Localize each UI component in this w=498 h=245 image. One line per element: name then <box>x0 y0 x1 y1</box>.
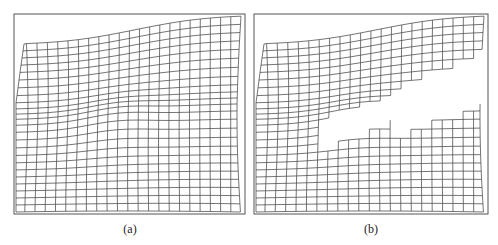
deformed-mesh-a <box>0 0 250 220</box>
panel-a <box>0 0 250 220</box>
fractured-mesh-b <box>250 0 498 220</box>
caption-a: (a) <box>110 222 150 237</box>
panel-b <box>250 0 498 220</box>
caption-b: (b) <box>351 222 391 237</box>
